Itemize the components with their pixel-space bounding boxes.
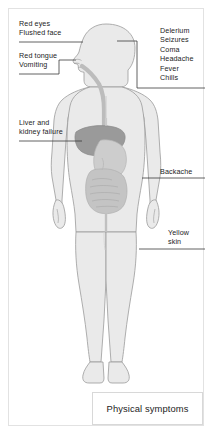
annotation-yellow-skin: Yellow skin bbox=[168, 228, 208, 247]
annotation-backache: Backache bbox=[160, 167, 208, 176]
caption-text: Physical symptoms bbox=[107, 403, 189, 414]
annotation-red-tongue-vomiting: Red tongue Vomiting bbox=[19, 51, 81, 70]
annotation-liver-and-kidney-failure: Liver and kidney failure bbox=[19, 118, 85, 137]
caption-box: Physical symptoms bbox=[92, 392, 203, 425]
annotation-red-eyes-flushed-face: Red eyes Flushed face bbox=[19, 19, 81, 38]
physical-symptoms-figure: Red eyes Flushed face Red tongue Vomitin… bbox=[0, 0, 212, 434]
annotation-delerium-seizures-coma-headache-fever-chills: Delerium Seizures Coma Headache Fever Ch… bbox=[160, 26, 208, 82]
